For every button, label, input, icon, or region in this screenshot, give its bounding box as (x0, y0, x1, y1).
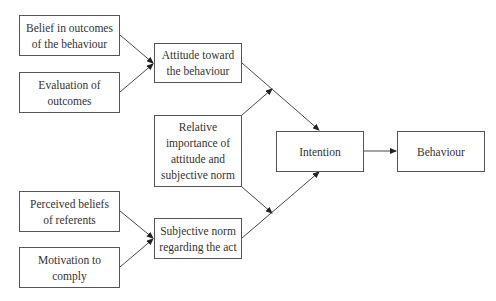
node-subjective-norm: Subjective norm regarding the act (154, 218, 242, 259)
arrow-evaluation-to-attitude (120, 64, 153, 92)
node-attitude-line-2: the behaviour (162, 63, 235, 79)
node-evaluation: Evaluation of outcomes (19, 72, 120, 113)
node-perceived-beliefs: Perceived beliefs of referents (19, 191, 120, 232)
node-perceived-line-1: Perceived beliefs (30, 196, 109, 212)
node-subjective-line-2: regarding the act (159, 239, 236, 255)
node-belief-line-2: of the behaviour (26, 36, 113, 52)
node-relative-line-3: attitude and (161, 151, 235, 167)
node-relative-line-1: Relative (161, 119, 235, 135)
node-relative-importance: Relative importance of attitude and subj… (154, 115, 242, 187)
node-intention-label: Intention (299, 144, 341, 160)
arrow-attitude-to-intention (242, 63, 319, 130)
node-evaluation-line-1: Evaluation of (38, 77, 100, 93)
node-behaviour-label: Behaviour (417, 144, 465, 160)
arrow-subjective-to-intention (242, 172, 319, 238)
node-perceived-line-2: of referents (30, 212, 109, 228)
node-evaluation-line-2: outcomes (38, 93, 100, 109)
arrow-motivation-to-subjective (120, 239, 153, 267)
arrow-relative-to-attitude-link (242, 89, 272, 115)
node-attitude-line-1: Attitude toward (162, 47, 235, 63)
node-motivation-line-1: Motivation to (38, 252, 101, 268)
node-relative-line-4: subjective norm (161, 167, 235, 183)
arrow-belief-to-attitude (120, 35, 153, 63)
arrow-perceived-to-subjective (120, 211, 153, 238)
node-behaviour: Behaviour (397, 131, 485, 172)
node-subjective-line-1: Subjective norm (159, 223, 236, 239)
node-belief: Belief in outcomes of the behaviour (19, 15, 120, 56)
arrow-relative-to-subjective-link (242, 187, 272, 213)
node-motivation: Motivation to comply (19, 247, 120, 288)
node-relative-line-2: importance of (161, 135, 235, 151)
node-motivation-line-2: comply (38, 268, 101, 284)
node-attitude: Attitude toward the behaviour (154, 43, 242, 83)
node-belief-line-1: Belief in outcomes (26, 20, 113, 36)
node-intention: Intention (276, 131, 364, 172)
